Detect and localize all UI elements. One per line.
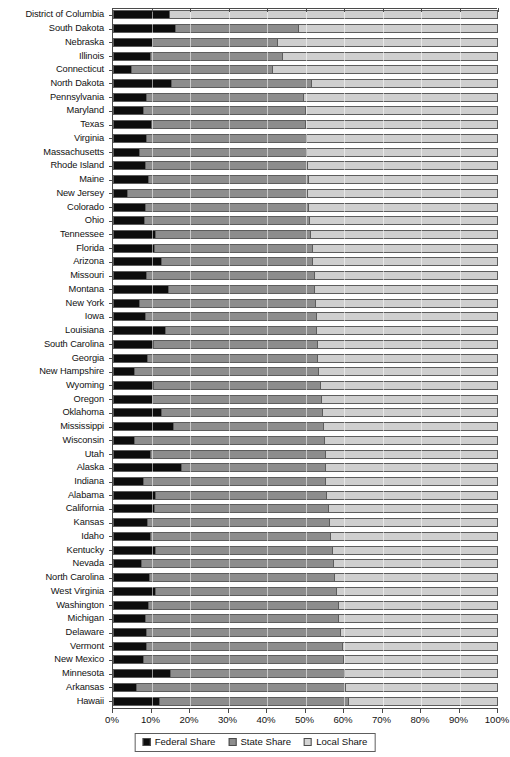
legend-label-state-share: State Share [240, 736, 291, 748]
plot-top-spine [113, 8, 497, 9]
bar-row[interactable] [113, 134, 498, 143]
bar-row[interactable] [113, 230, 498, 239]
x-axis-tick-label: 100% [485, 714, 510, 726]
category-label: Delaware [0, 627, 104, 637]
bar-row[interactable] [113, 106, 498, 115]
bar-row[interactable] [113, 244, 498, 253]
category-label: Alabama [0, 490, 104, 500]
legend-item-state-share[interactable]: State Share [228, 736, 291, 748]
bar-row[interactable] [113, 628, 498, 637]
bar-segment-state [152, 39, 278, 46]
bar-row[interactable] [113, 559, 498, 568]
x-axis-tick [305, 708, 306, 713]
legend-item-local-share[interactable]: Local Share [304, 736, 367, 748]
bar-row[interactable] [113, 93, 498, 102]
bar-row[interactable] [113, 463, 498, 472]
bar-row[interactable] [113, 148, 498, 157]
bar-row[interactable] [113, 24, 498, 33]
legend-item-federal-share[interactable]: Federal Share [143, 736, 216, 748]
bar-row[interactable] [113, 408, 498, 417]
bar-segment-federal [114, 602, 148, 609]
x-axis-top-tick [498, 8, 499, 12]
bar-row[interactable] [113, 422, 498, 431]
bar-row[interactable] [113, 367, 498, 376]
bar-segment-local [340, 629, 497, 636]
bar-row[interactable] [113, 601, 498, 610]
bar-segment-local [328, 505, 497, 512]
bar-segment-federal [114, 149, 139, 156]
bar-segment-state [145, 162, 307, 169]
category-label: Utah [0, 449, 104, 459]
bar-row[interactable] [113, 573, 498, 582]
bar-row[interactable] [113, 381, 498, 390]
bar-row[interactable] [113, 175, 498, 184]
bar-segment-federal [114, 39, 152, 46]
bar-row[interactable] [113, 340, 498, 349]
bar-segment-local [342, 643, 497, 650]
bar-segment-federal [114, 505, 154, 512]
bar-segment-federal [114, 80, 171, 87]
bar-row[interactable] [113, 450, 498, 459]
category-label: Texas [0, 119, 104, 129]
bar-row[interactable] [113, 436, 498, 445]
bar-segment-federal [114, 368, 134, 375]
bar-row[interactable] [113, 216, 498, 225]
bar-segment-state [146, 94, 303, 101]
bar-row[interactable] [113, 354, 498, 363]
bar-segment-local [312, 258, 497, 265]
bar-row[interactable] [113, 504, 498, 513]
bar-segment-federal [114, 643, 146, 650]
category-label: Washington [0, 600, 104, 610]
bar-row[interactable] [113, 161, 498, 170]
bar-row[interactable] [113, 203, 498, 212]
bar-segment-state [154, 245, 311, 252]
bar-segment-state [154, 505, 327, 512]
bar-row[interactable] [113, 65, 498, 74]
bar-row[interactable] [113, 683, 498, 692]
bar-segment-federal [114, 327, 165, 334]
bar-row[interactable] [113, 395, 498, 404]
bar-row[interactable] [113, 52, 498, 61]
bar-row[interactable] [113, 79, 498, 88]
bar-row[interactable] [113, 518, 498, 527]
category-label: Iowa [0, 311, 104, 321]
bar-row[interactable] [113, 697, 498, 706]
bar-row[interactable] [113, 120, 498, 129]
bar-segment-local [298, 25, 497, 32]
bar-row[interactable] [113, 257, 498, 266]
x-axis-tick-label: 90% [449, 714, 468, 726]
x-axis-tick [497, 708, 498, 713]
bar-row[interactable] [113, 587, 498, 596]
category-label: Oregon [0, 394, 104, 404]
bar-segment-state [145, 313, 315, 320]
bar-row[interactable] [113, 614, 498, 623]
bar-row[interactable] [113, 285, 498, 294]
bar-row[interactable] [113, 477, 498, 486]
bar-row[interactable] [113, 38, 498, 47]
bar-row[interactable] [113, 189, 498, 198]
bar-segment-local [326, 492, 497, 499]
category-label: Idaho [0, 531, 104, 541]
bar-segment-federal [114, 629, 146, 636]
bar-row[interactable] [113, 271, 498, 280]
bar-segment-state [161, 258, 312, 265]
bar-segment-local [344, 670, 497, 677]
bar-row[interactable] [113, 655, 498, 664]
bar-segment-state [147, 355, 317, 362]
bar-row[interactable] [113, 642, 498, 651]
bar-row[interactable] [113, 312, 498, 321]
bar-row[interactable] [113, 532, 498, 541]
legend-label-local-share: Local Share [316, 736, 367, 748]
bar-segment-federal [114, 11, 169, 18]
bar-row[interactable] [113, 299, 498, 308]
category-label: Hawaii [0, 696, 104, 706]
bar-row[interactable] [113, 326, 498, 335]
category-label: New Mexico [0, 654, 104, 664]
bar-segment-local [317, 341, 497, 348]
bar-segment-federal [114, 615, 145, 622]
bar-row[interactable] [113, 669, 498, 678]
bar-row[interactable] [113, 546, 498, 555]
bar-row[interactable] [113, 491, 498, 500]
x-axis-tick [343, 708, 344, 713]
bar-segment-state [134, 368, 318, 375]
